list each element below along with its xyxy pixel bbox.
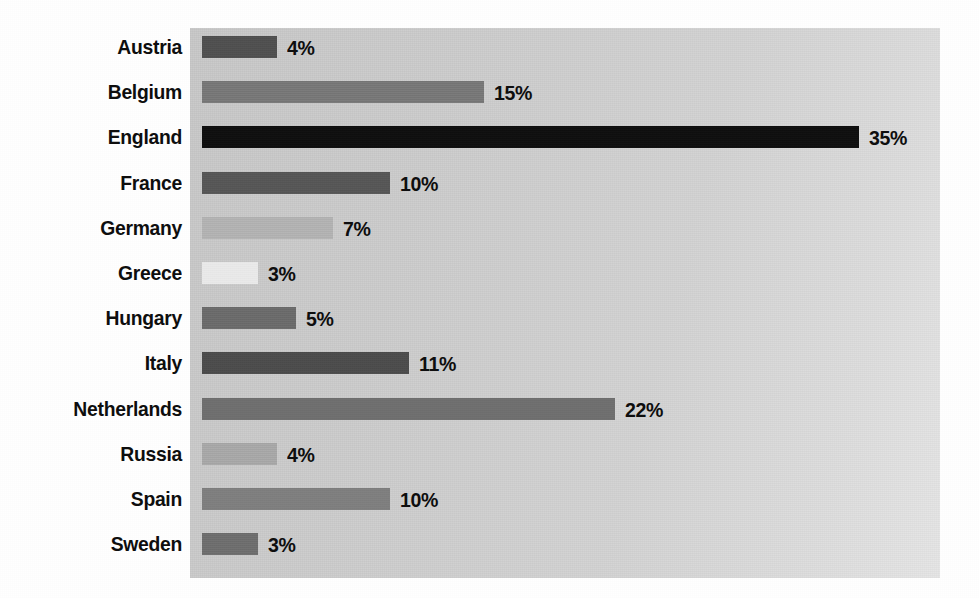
bar-row: Italy11% (0, 348, 979, 378)
bar-greece (202, 262, 258, 284)
bar-track (202, 352, 409, 374)
category-label-germany: Germany (15, 213, 182, 243)
value-label-russia: 4% (287, 439, 314, 469)
bar-track (202, 36, 277, 58)
bar-row: France10% (0, 168, 979, 198)
bar-sweden (202, 533, 258, 555)
bar-row: Hungary5% (0, 303, 979, 333)
category-label-france: France (15, 168, 182, 198)
bar-track (202, 398, 615, 420)
bar-track (202, 488, 390, 510)
bar-row: Greece3% (0, 258, 979, 288)
bar-row: Germany7% (0, 213, 979, 243)
bar-track (202, 172, 390, 194)
bar-track (202, 126, 859, 148)
bar-row: Austria4% (0, 32, 979, 62)
value-label-france: 10% (400, 168, 438, 198)
category-label-spain: Spain (15, 484, 182, 514)
bar-belgium (202, 81, 484, 103)
bar-france (202, 172, 390, 194)
bar-england (202, 126, 859, 148)
bar-austria (202, 36, 277, 58)
value-label-germany: 7% (343, 213, 370, 243)
bar-track (202, 443, 277, 465)
category-label-austria: Austria (15, 32, 182, 62)
bar-track (202, 262, 258, 284)
bar-hungary (202, 307, 296, 329)
bar-germany (202, 217, 333, 239)
bar-chart: Austria4%Belgium15%England35%France10%Ge… (0, 0, 979, 598)
bar-row: Netherlands22% (0, 394, 979, 424)
bar-track (202, 307, 296, 329)
value-label-hungary: 5% (306, 303, 333, 333)
value-label-austria: 4% (287, 32, 314, 62)
value-label-belgium: 15% (494, 77, 532, 107)
category-label-russia: Russia (15, 439, 182, 469)
bar-netherlands (202, 398, 615, 420)
bar-row: England35% (0, 122, 979, 152)
value-label-sweden: 3% (268, 529, 295, 559)
category-label-italy: Italy (15, 348, 182, 378)
value-label-netherlands: 22% (625, 394, 663, 424)
value-label-italy: 11% (419, 348, 456, 378)
category-label-belgium: Belgium (15, 77, 182, 107)
category-label-hungary: Hungary (15, 303, 182, 333)
bar-row: Russia4% (0, 439, 979, 469)
category-label-greece: Greece (15, 258, 182, 288)
category-label-england: England (15, 122, 182, 152)
bar-track (202, 533, 258, 555)
value-label-england: 35% (869, 122, 907, 152)
category-label-netherlands: Netherlands (15, 394, 182, 424)
category-label-sweden: Sweden (15, 529, 182, 559)
bar-track (202, 81, 484, 103)
bar-spain (202, 488, 390, 510)
bar-row: Sweden3% (0, 529, 979, 559)
value-label-greece: 3% (268, 258, 295, 288)
bar-row: Spain10% (0, 484, 979, 514)
bar-russia (202, 443, 277, 465)
bar-track (202, 217, 333, 239)
bar-italy (202, 352, 409, 374)
bar-row: Belgium15% (0, 77, 979, 107)
value-label-spain: 10% (400, 484, 438, 514)
